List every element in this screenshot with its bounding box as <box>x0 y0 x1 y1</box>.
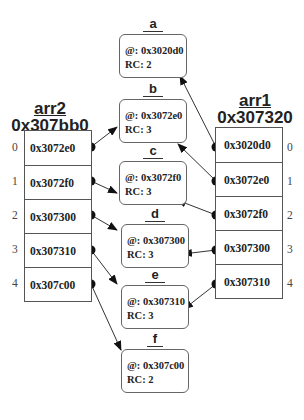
arr2-cell: 0x307c00 <box>25 267 91 301</box>
arr2-index: 0 <box>12 130 18 164</box>
arr1-cell: 0x3020d0 <box>216 128 282 162</box>
arr2-name: arr2 <box>0 100 100 117</box>
object-f: @: 0x307c00 RC: 2 <box>121 349 189 393</box>
arr2-cell: 0x3072f0 <box>25 165 91 199</box>
object-address: @: 0x3020d0 <box>125 44 186 58</box>
arr2-index: 3 <box>12 232 18 266</box>
object-refcount: RC: 2 <box>127 373 188 387</box>
object-refcount: RC: 3 <box>127 248 188 262</box>
object-refcount: RC: 3 <box>127 309 188 323</box>
object-d-label: d <box>120 207 190 222</box>
arr1-cell: 0x3072f0 <box>216 196 282 230</box>
arr2-title: arr2 0x307bb0 <box>0 100 100 134</box>
arr1-index: 0 <box>287 130 293 164</box>
arr1-index: 1 <box>287 164 293 198</box>
arr1-cell: 0x3072e0 <box>216 162 282 196</box>
arr1-title: arr1 0x307320 <box>210 92 300 126</box>
object-address: @: 0x307c00 <box>127 359 188 373</box>
arr2-index: 1 <box>12 164 18 198</box>
object-b: @: 0x3072e0 RC: 3 <box>119 99 187 143</box>
object-e: @: 0x307310 RC: 3 <box>121 285 189 329</box>
arr1-cell: 0x307300 <box>216 230 282 264</box>
object-e-label: e <box>120 268 190 283</box>
arr2-index: 4 <box>12 266 18 300</box>
object-address: @: 0x307300 <box>127 234 188 248</box>
object-c: @: 0x3072f0 RC: 3 <box>119 161 187 205</box>
arr1-array: 0x3020d0 0x3072e0 0x3072f0 0x307300 0x30… <box>215 127 283 299</box>
arr1-address: 0x307320 <box>217 108 293 127</box>
arr2-index: 2 <box>12 198 18 232</box>
object-b-label: b <box>118 82 188 97</box>
arr1-index: 3 <box>287 232 293 266</box>
object-d: @: 0x307300 RC: 3 <box>121 224 189 268</box>
object-a: @: 0x3020d0 RC: 2 <box>119 34 187 78</box>
object-address: @: 0x3072e0 <box>125 109 186 123</box>
arr1-name: arr1 <box>210 92 300 109</box>
object-refcount: RC: 2 <box>125 58 186 72</box>
object-address: @: 0x3072f0 <box>125 171 186 185</box>
arr2-cell: 0x307310 <box>25 233 91 267</box>
object-f-label: f <box>120 332 190 347</box>
arr1-index: 2 <box>287 198 293 232</box>
object-c-label: c <box>118 144 188 159</box>
arr2-array: 0x3072e0 0x3072f0 0x307300 0x307310 0x30… <box>24 130 92 302</box>
arr1-cell: 0x307310 <box>216 264 282 298</box>
object-refcount: RC: 3 <box>125 123 186 137</box>
object-address: @: 0x307310 <box>127 295 188 309</box>
arr1-index: 4 <box>287 266 293 300</box>
arr2-cell: 0x307300 <box>25 199 91 233</box>
object-refcount: RC: 3 <box>125 185 186 199</box>
arr2-cell: 0x3072e0 <box>25 131 91 165</box>
object-a-label: a <box>118 17 188 32</box>
